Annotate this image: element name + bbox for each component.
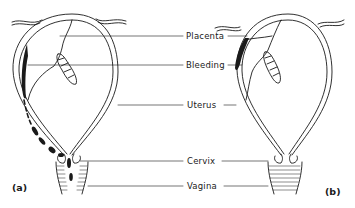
label-uterus: Uterus [187, 100, 216, 110]
placenta-a [28, 20, 72, 100]
panel-label-b: (b) [325, 186, 340, 197]
umbilical-cord-b [264, 52, 281, 83]
cervix-b [274, 154, 297, 163]
label-cervix: Cervix [187, 156, 215, 166]
uterus-b [237, 14, 332, 155]
ligament-lines-b [215, 20, 344, 31]
panel-label-a: (a) [12, 182, 27, 193]
label-bleeding: Bleeding [186, 60, 225, 70]
uterus-a [13, 14, 118, 155]
vagina-b [268, 162, 302, 194]
label-placenta: Placenta [186, 31, 224, 41]
leader-lines [28, 36, 268, 186]
umbilical-cord-a [57, 54, 77, 85]
placental-abruption-diagram [0, 0, 355, 208]
bleeding-track-a [24, 100, 32, 126]
label-vagina: Vagina [187, 181, 217, 191]
placenta-b [245, 20, 281, 100]
